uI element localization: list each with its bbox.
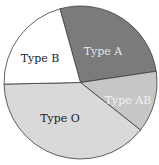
label-type-ab: Type AB <box>105 94 152 107</box>
label-type-o: Type O <box>40 112 80 125</box>
label-type-b: Type B <box>21 52 60 65</box>
pie-chart: Type A Type AB Type O Type B <box>0 0 159 165</box>
label-type-a: Type A <box>84 45 124 58</box>
pie-slices <box>4 6 157 159</box>
